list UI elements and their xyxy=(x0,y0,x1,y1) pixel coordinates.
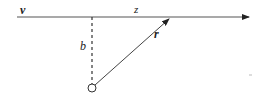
position-vector-label: r xyxy=(154,27,159,41)
faint-mark xyxy=(249,74,252,76)
z-axis-label: z xyxy=(133,3,139,15)
velocity-label: v xyxy=(20,3,26,17)
origin-point-circle xyxy=(88,84,96,92)
impact-parameter-label: b xyxy=(80,39,86,53)
impact-parameter-diagram: v z b r xyxy=(0,0,263,98)
